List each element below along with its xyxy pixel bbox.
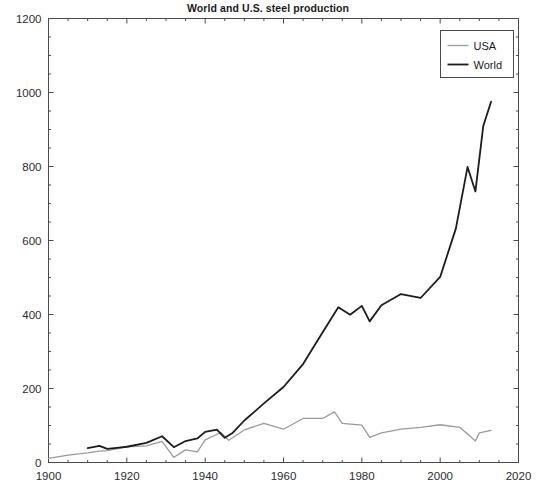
x-tick-label: 1920 [114,470,140,482]
x-tick-label: 1960 [271,470,297,482]
y-tick-label: 0 [35,457,41,469]
y-tick-label: 1000 [16,87,42,99]
axis-spine-left-bottom [49,19,519,463]
x-axis-ticks: 1900192019401960198020002020 [36,19,532,482]
x-tick-label: 1980 [349,470,375,482]
axis-lines [49,19,519,463]
x-tick-label: 1940 [192,470,218,482]
chart-container: World and U.S. steel production 02004006… [0,0,536,487]
y-tick-label: 1200 [16,13,42,25]
x-tick-label: 2000 [427,470,453,482]
y-tick-label: 400 [22,309,41,321]
legend-label-world: World [474,59,503,71]
chart-plot: 020040060080010001200 190019201940196019… [0,0,536,487]
axis-spine-top-right [49,19,519,463]
chart-legend: USAWorld [441,31,514,78]
data-series [49,102,492,459]
y-tick-label: 800 [22,161,41,173]
x-tick-label: 2020 [506,470,532,482]
series-line-usa [49,412,492,459]
legend-label-usa: USA [474,40,497,52]
x-tick-label: 1900 [36,470,62,482]
y-tick-label: 200 [22,383,41,395]
y-tick-label: 600 [22,235,41,247]
series-line-world [88,102,491,449]
